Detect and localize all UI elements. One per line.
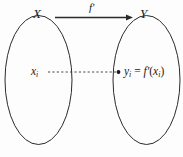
- codomain-element-equation: yi = f′(xi): [124, 66, 164, 79]
- prime-mark: ′: [92, 1, 94, 13]
- function-mapping-figure: X Y f′ xi yi = f′(xi): [0, 0, 183, 157]
- close-paren: ): [160, 65, 164, 77]
- image-point-dot: [117, 70, 121, 74]
- domain-element-subscript: i: [36, 70, 38, 79]
- domain-element-label: xi: [31, 66, 38, 79]
- domain-set-label: X: [33, 7, 41, 20]
- codomain-ellipse: [113, 16, 180, 145]
- codomain-set-label: Y: [140, 7, 147, 20]
- mapping-function-label: f′: [89, 2, 94, 13]
- mapping-arrow-head: [126, 15, 133, 21]
- domain-ellipse: [5, 16, 72, 145]
